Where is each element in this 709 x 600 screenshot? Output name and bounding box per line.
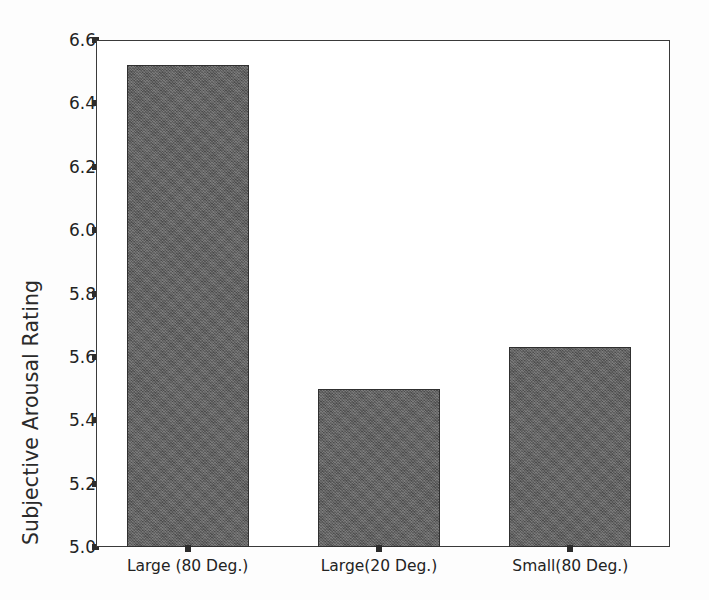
bar-chart-figure: Subjective Arousal Rating 6.66.46.26.05.… <box>0 0 709 600</box>
x-tick-mark <box>567 545 573 552</box>
y-tick-label: 5.6 <box>50 347 96 367</box>
x-tick-label: Large (80 Deg.) <box>78 557 298 575</box>
bar-1 <box>127 65 249 547</box>
bars-layer <box>96 40 670 547</box>
bar-2 <box>318 389 440 547</box>
y-tick-label: 5.0 <box>50 537 96 557</box>
x-tick-label: Small(80 Deg.) <box>460 557 680 575</box>
x-tick-mark <box>185 545 191 552</box>
y-tick-label: 5.4 <box>50 410 96 430</box>
y-tick-label: 6.2 <box>50 157 96 177</box>
x-tick-mark <box>376 545 382 552</box>
y-tick-label: 5.2 <box>50 474 96 494</box>
y-tick-label: 6.6 <box>50 30 96 50</box>
y-tick-label: 6.4 <box>50 93 96 113</box>
bar-3 <box>509 347 631 547</box>
y-tick-label: 5.8 <box>50 284 96 304</box>
y-tick-label: 6.0 <box>50 220 96 240</box>
y-axis-ticks: 6.66.46.26.05.85.65.45.25.0 <box>0 0 96 600</box>
x-tick-label: Large(20 Deg.) <box>269 557 489 575</box>
